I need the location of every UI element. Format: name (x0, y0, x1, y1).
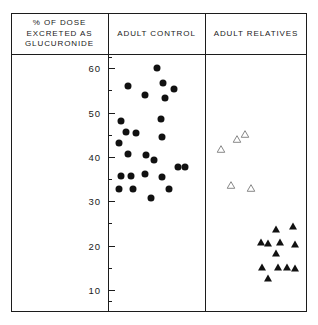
data-point-filled-circle (117, 172, 124, 179)
y-tick-minor (108, 268, 112, 269)
data-point-filled-triangle (291, 241, 299, 248)
data-point-open-triangle (217, 139, 226, 157)
y-axis-tick-labels: 605040302010 (33, 55, 101, 312)
data-point-filled-circle (117, 117, 124, 124)
axis-title-line1: % OF DOSE (25, 18, 94, 29)
data-point-filled-circle (115, 185, 122, 192)
data-point-filled-triangle (291, 264, 299, 271)
y-tick-minor (108, 179, 112, 180)
data-point-filled-circle (128, 172, 135, 179)
data-point-filled-triangle (289, 222, 297, 229)
data-point-filled-circle (170, 86, 177, 93)
axis-title-line2: EXCRETED AS (25, 29, 94, 40)
data-point-filled-circle (115, 139, 122, 146)
data-point-filled-circle (150, 157, 157, 164)
data-point-filled-circle (159, 173, 166, 180)
data-point-filled-circle (123, 129, 130, 136)
axis-title-line3: GLUCURONIDE (25, 39, 94, 50)
y-tick-major (108, 157, 115, 158)
y-tick-label: 50 (41, 107, 101, 118)
data-point-filled-triangle (276, 238, 284, 245)
y-tick-major (108, 201, 115, 202)
data-point-filled-triangle (272, 249, 280, 256)
y-tick-label: 40 (41, 151, 101, 162)
data-point-filled-triangle (274, 263, 282, 270)
y-tick-major (108, 246, 115, 247)
panel-title-adult-control: ADULT CONTROL (108, 13, 205, 55)
data-point-filled-circle (130, 186, 137, 193)
plot-area: 605040302010 (11, 55, 307, 312)
axis-title-cell: % OF DOSE EXCRETED AS GLUCURONIDE (11, 13, 108, 55)
data-point-filled-circle (162, 94, 169, 101)
y-axis-line (108, 55, 109, 312)
y-tick-minor (108, 223, 112, 224)
data-point-filled-circle (133, 129, 140, 136)
data-point-filled-circle (153, 65, 160, 72)
panel-title-adult-relatives: ADULT RELATIVES (205, 13, 307, 55)
data-point-filled-triangle (283, 263, 291, 270)
y-tick-label: 30 (41, 196, 101, 207)
data-point-filled-circle (166, 185, 173, 192)
data-point-open-triangle (226, 175, 235, 193)
y-tick-minor (108, 57, 112, 58)
data-point-filled-circle (125, 151, 132, 158)
data-point-filled-circle (141, 170, 148, 177)
data-point-filled-circle (159, 133, 166, 140)
data-point-open-triangle (246, 178, 255, 196)
data-point-filled-triangle (272, 226, 280, 233)
y-tick-label: 20 (41, 240, 101, 251)
data-point-filled-triangle (258, 263, 266, 270)
data-point-filled-circle (181, 163, 188, 170)
data-point-filled-triangle (264, 275, 272, 282)
y-tick-minor (108, 90, 112, 91)
data-point-filled-circle (160, 80, 167, 87)
data-point-open-triangle (232, 129, 241, 147)
y-tick-major (108, 113, 115, 114)
data-point-filled-circle (147, 195, 154, 202)
y-tick-label: 10 (41, 284, 101, 295)
data-point-filled-circle (125, 83, 132, 90)
y-tick-minor (108, 135, 112, 136)
y-tick-major (108, 68, 115, 69)
scatter-figure: % OF DOSE EXCRETED AS GLUCURONIDE ADULT … (0, 0, 318, 325)
data-point-filled-triangle (264, 239, 272, 246)
data-point-filled-circle (142, 151, 149, 158)
data-point-filled-circle (158, 116, 165, 123)
data-point-filled-circle (141, 91, 148, 98)
data-point-open-triangle (240, 124, 249, 142)
y-tick-major (108, 290, 115, 291)
y-tick-minor (108, 301, 112, 302)
y-tick-label: 60 (41, 63, 101, 74)
